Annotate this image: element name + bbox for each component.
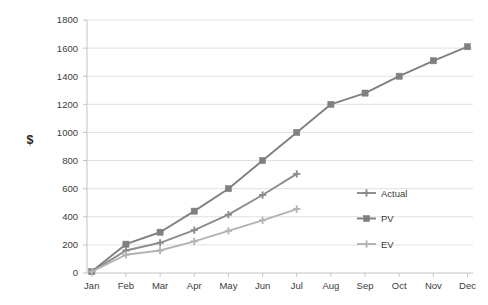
- data-point-marker: [363, 215, 369, 221]
- x-tick-label: May: [219, 280, 237, 291]
- legend-label: EV: [381, 239, 394, 250]
- y-tick-label: 400: [62, 211, 78, 222]
- x-tick-label: Jul: [291, 280, 303, 291]
- line-chart: 020040060080010001200140016001800 JanFeb…: [0, 0, 488, 305]
- data-point-marker: [396, 73, 402, 79]
- y-tick-label: 0: [73, 267, 78, 278]
- y-tick-label: 800: [62, 155, 78, 166]
- data-point-marker: [157, 229, 163, 235]
- y-tick-label: 1400: [57, 71, 78, 82]
- x-tick-label: Nov: [425, 280, 442, 291]
- x-tick-label: Aug: [322, 280, 339, 291]
- data-point-marker: [362, 90, 368, 96]
- x-tick-label: Jun: [255, 280, 270, 291]
- data-point-marker: [191, 208, 197, 214]
- chart-container: 020040060080010001200140016001800 JanFeb…: [0, 0, 488, 305]
- y-tick-label: 600: [62, 183, 78, 194]
- y-tick-label: 1200: [57, 99, 78, 110]
- x-tick-label: Mar: [152, 280, 168, 291]
- x-tick-label: Jan: [84, 280, 99, 291]
- data-point-marker: [464, 44, 470, 50]
- y-tick-label: 200: [62, 239, 78, 250]
- y-tick-label: 1000: [57, 127, 78, 138]
- y-axis-ticks: 020040060080010001200140016001800: [57, 14, 87, 278]
- x-axis-ticks: JanFebMarAprMayJunJulAugSepOctNovDec: [84, 273, 476, 291]
- legend-label: PV: [381, 213, 394, 224]
- y-tick-label: 1600: [57, 43, 78, 54]
- x-tick-label: Apr: [187, 280, 202, 291]
- y-axis-title: $: [27, 133, 34, 147]
- data-point-marker: [328, 101, 334, 107]
- x-tick-label: Feb: [118, 280, 134, 291]
- data-point-marker: [294, 129, 300, 135]
- legend-label: Actual: [381, 188, 407, 199]
- y-tick-label: 1800: [57, 14, 78, 25]
- data-point-marker: [259, 157, 265, 163]
- x-tick-label: Oct: [392, 280, 407, 291]
- data-point-marker: [430, 58, 436, 64]
- data-point-marker: [225, 186, 231, 192]
- data-point-marker: [123, 241, 129, 247]
- x-tick-label: Dec: [459, 280, 476, 291]
- x-tick-label: Sep: [357, 280, 374, 291]
